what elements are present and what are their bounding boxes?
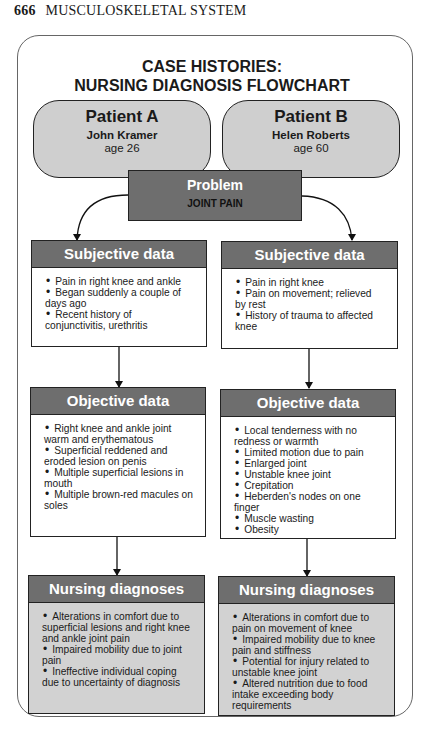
list-item: Began suddenly a couple of days ago xyxy=(45,287,194,309)
list-item: Local tenderness with no redness or warm… xyxy=(234,425,383,447)
list-item: Potential for injury related to unstable… xyxy=(232,656,382,678)
list-item: Muscle wasting xyxy=(234,513,383,524)
list-item: Enlarged joint xyxy=(234,458,383,469)
patient-age: age 26 xyxy=(34,142,210,154)
list-item: Crepitation xyxy=(234,480,383,491)
box-header: Subjective data xyxy=(222,242,397,269)
box-header: Subjective data xyxy=(32,241,206,268)
list-item: Superficial reddened and eroded lesion o… xyxy=(44,445,193,467)
list-item: Pain on movement; relieved by rest xyxy=(235,288,385,310)
list-item: Unstable knee joint xyxy=(234,469,383,480)
list-item: Multiple superficial lesions in mouth xyxy=(44,467,193,489)
list-item: Limited motion due to pain xyxy=(234,447,383,458)
problem-value: JOINT PAIN xyxy=(129,198,301,209)
list-item: Obesity xyxy=(234,524,383,535)
subjective-box-b: Subjective data Pain in right knee Pain … xyxy=(221,241,398,349)
box-header: Nursing diagnoses xyxy=(219,577,394,604)
list-item: Impaired mobility due to joint pain xyxy=(42,644,192,666)
problem-title: Problem xyxy=(129,177,301,193)
patient-age: age 60 xyxy=(223,142,399,154)
list-item: Multiple brown-red macules on soles xyxy=(44,489,193,511)
patient-name: John Kramer xyxy=(34,129,210,141)
patient-a-oval: Patient A John Kramer age 26 xyxy=(33,100,211,178)
patient-name: Helen Roberts xyxy=(223,129,399,141)
patient-label: Patient A xyxy=(34,107,210,127)
box-header: Objective data xyxy=(31,388,205,415)
list-item: Pain in right knee xyxy=(235,277,385,288)
list-item: History of trauma to affected knee xyxy=(235,310,385,332)
list-item: Right knee and ankle joint warm and eryt… xyxy=(44,423,193,445)
list-item: Impaired mobility due to knee pain and s… xyxy=(232,634,382,656)
patient-b-oval: Patient B Helen Roberts age 60 xyxy=(222,100,400,178)
list-item: Ineffective individual coping due to unc… xyxy=(42,666,192,688)
diagnoses-box-b: Nursing diagnoses Alterations in comfort… xyxy=(218,576,395,716)
list-item: Alterations in comfort due to pain on mo… xyxy=(232,612,382,634)
list-item: Heberden's nodes on one finger xyxy=(234,491,383,513)
box-header: Nursing diagnoses xyxy=(29,576,204,603)
patient-label: Patient B xyxy=(223,107,399,127)
list-item: Altered nutrition due to food intake exc… xyxy=(232,678,382,711)
objective-box-b: Objective data Local tenderness with no … xyxy=(220,389,396,539)
list-item: Alterations in comfort due to superficia… xyxy=(42,611,192,644)
box-header: Objective data xyxy=(221,390,395,417)
problem-box: Problem JOINT PAIN xyxy=(128,170,302,221)
objective-box-a: Objective data Right knee and ankle join… xyxy=(30,387,206,537)
list-item: Pain in right knee and ankle xyxy=(45,276,194,287)
diagnoses-box-a: Nursing diagnoses Alterations in comfort… xyxy=(28,575,205,714)
list-item: Recent history of conjunctivitis, urethr… xyxy=(45,309,194,331)
subjective-box-a: Subjective data Pain in right knee and a… xyxy=(31,240,207,347)
